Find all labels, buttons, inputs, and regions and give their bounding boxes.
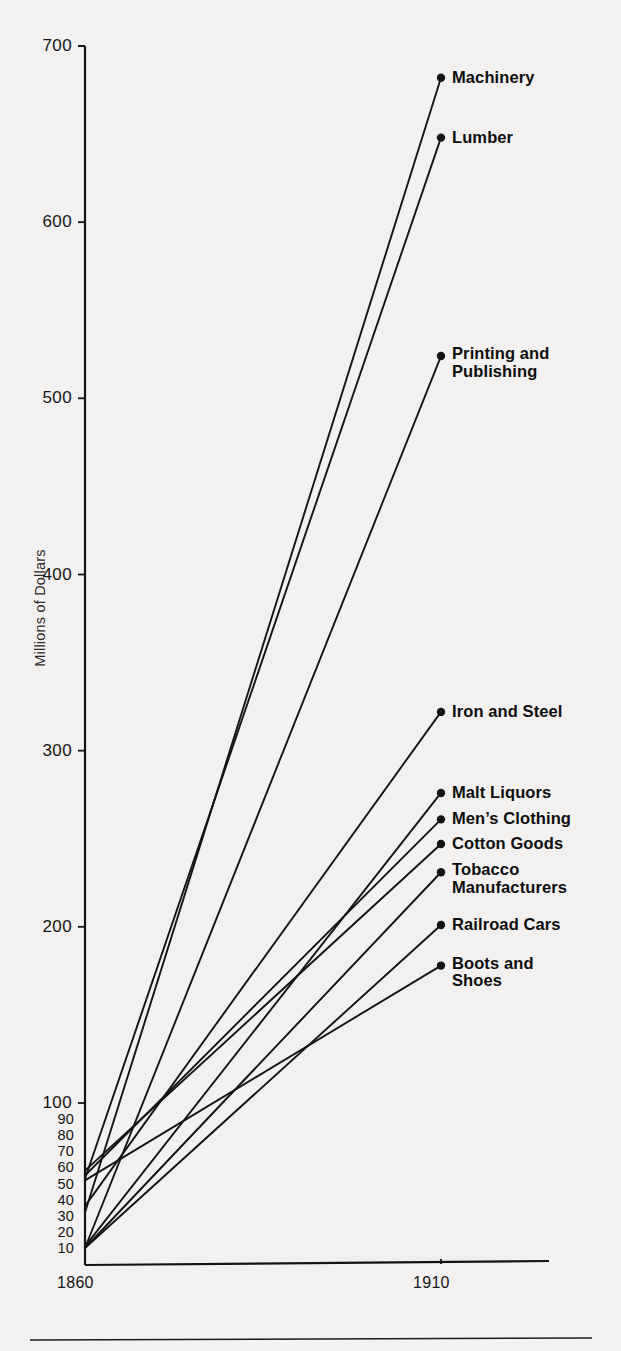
- chart-figure: Millions of Dollars 70060050040030020010…: [0, 0, 621, 1351]
- chart-plot-area: [0, 0, 621, 1351]
- y-tick-label-minor: 30: [8, 1209, 74, 1224]
- series-label-malt-liquors: Malt Liquors: [452, 784, 551, 802]
- axes-group: [78, 46, 549, 1265]
- y-tick-label-minor: 50: [8, 1177, 74, 1192]
- series-line-railroad-cars: [85, 925, 441, 1248]
- series-label-railroad-cars: Railroad Cars: [452, 916, 561, 934]
- series-label-lumber: Lumber: [452, 129, 513, 147]
- y-tick-label: 200: [8, 918, 72, 935]
- series-endpoint-boots-and-shoes: [437, 961, 445, 969]
- series-endpoint-iron-and-steel: [437, 708, 445, 716]
- series-label-iron-and-steel: Iron and Steel: [452, 703, 563, 721]
- y-tick-label: 700: [8, 37, 72, 54]
- x-axis-line: [85, 1261, 549, 1265]
- y-tick-label-minor: 40: [8, 1193, 74, 1208]
- series-line-machinery: [85, 78, 441, 1213]
- series-line-iron-and-steel: [85, 712, 441, 1206]
- y-tick-label-minor: 90: [8, 1112, 74, 1127]
- series-endpoint-printing-and-publishing: [437, 352, 445, 360]
- footer-rule: [30, 1338, 592, 1340]
- series-label-men-s-clothing: Men’s Clothing: [452, 810, 571, 828]
- series-line-printing-and-publishing: [85, 356, 441, 1248]
- x-tick-label: 1860: [57, 1275, 94, 1291]
- y-tick-label-minor: 20: [8, 1225, 74, 1240]
- y-tick-label: 600: [8, 213, 72, 230]
- series-endpoint-railroad-cars: [437, 921, 445, 929]
- y-tick-label: 100: [8, 1094, 72, 1111]
- y-axis-title: Millions of Dollars: [32, 528, 48, 688]
- y-tick-label-minor: 70: [8, 1144, 74, 1159]
- series-label-machinery: Machinery: [452, 69, 535, 87]
- series-line-lumber: [85, 138, 441, 1179]
- series-endpoint-cotton-goods: [437, 840, 445, 848]
- y-tick-label: 400: [8, 566, 72, 583]
- series-line-cotton-goods: [85, 844, 441, 1171]
- y-tick-label: 300: [8, 742, 72, 759]
- series-label-cotton-goods: Cotton Goods: [452, 835, 563, 853]
- series-label-boots-and-shoes: Boots and Shoes: [452, 955, 534, 991]
- series-endpoint-malt-liquors: [437, 789, 445, 797]
- y-tick-label-minor: 80: [8, 1128, 74, 1143]
- series-endpoint-men-s-clothing: [437, 815, 445, 823]
- y-tick-label-minor: 10: [8, 1241, 74, 1256]
- series-group: [85, 74, 445, 1248]
- series-endpoint-machinery: [437, 74, 445, 82]
- series-endpoint-tobacco-manufacturers: [437, 868, 445, 876]
- y-tick-label: 500: [8, 389, 72, 406]
- series-line-tobacco-manufacturers: [85, 872, 441, 1248]
- series-endpoint-lumber: [437, 133, 445, 141]
- series-label-printing-and-publishing: Printing and Publishing: [452, 345, 549, 381]
- series-label-tobacco-manufacturers: Tobacco Manufacturers: [452, 861, 567, 897]
- x-tick-label: 1910: [413, 1275, 450, 1291]
- y-tick-label-minor: 60: [8, 1160, 74, 1175]
